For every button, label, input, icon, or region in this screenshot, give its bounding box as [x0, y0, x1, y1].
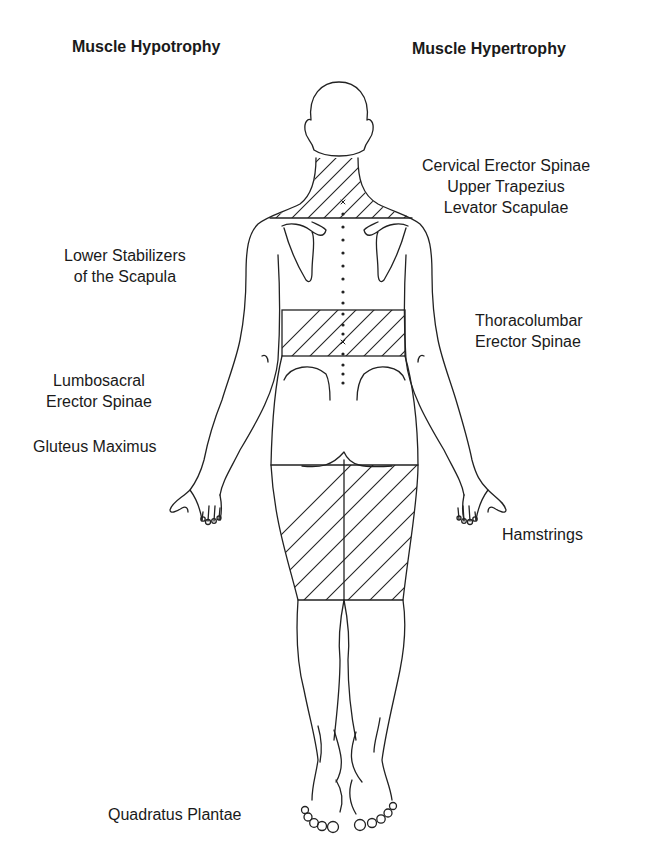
scapulae [282, 222, 408, 282]
head [305, 82, 373, 156]
body-figure [0, 0, 659, 858]
hatch-neck-upper-trapezius [218, 150, 472, 260]
waist-curves [284, 367, 405, 467]
feet [302, 803, 397, 833]
spine-dots [341, 200, 345, 385]
left-hand [190, 490, 222, 525]
torso-outline [170, 158, 506, 512]
right-hand [457, 490, 488, 525]
lower-legs [297, 600, 405, 814]
hatch-thoracolumbar-band [250, 300, 456, 380]
hatch-hamstrings-band [196, 460, 554, 620]
